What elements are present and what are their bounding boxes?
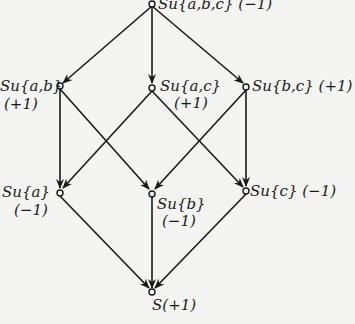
label-bc: Su{b,c} (+1) xyxy=(252,78,352,95)
label-b: Su{b} xyxy=(157,196,206,213)
sign-ac: (+1) xyxy=(174,95,208,112)
node-bc xyxy=(243,84,249,90)
edge-a-s xyxy=(60,196,149,288)
node-a xyxy=(57,190,63,196)
label-a: Su{a} xyxy=(2,184,50,201)
node-s xyxy=(149,289,155,295)
sign-b: (−1) xyxy=(162,213,196,230)
lattice-diagram xyxy=(0,0,355,324)
node-c xyxy=(243,188,249,194)
edge-abc-bc xyxy=(152,6,243,83)
node-abc xyxy=(149,1,155,7)
edge-abc-ab xyxy=(63,6,152,83)
label-c: Su{c} (−1) xyxy=(250,183,336,200)
sign-a: (−1) xyxy=(14,202,48,219)
node-ac xyxy=(149,85,155,91)
edge-ac-a xyxy=(63,91,152,188)
label-ac: Su{a,c} xyxy=(160,78,221,95)
label-abc: Su{a,b,c} (−1) xyxy=(158,0,272,13)
label-ab: Su{a,b} xyxy=(0,78,62,95)
label-s: S(+1) xyxy=(152,297,196,314)
edge-ab-b xyxy=(60,89,149,189)
sign-ab: (+1) xyxy=(4,96,38,113)
node-b xyxy=(149,191,155,197)
